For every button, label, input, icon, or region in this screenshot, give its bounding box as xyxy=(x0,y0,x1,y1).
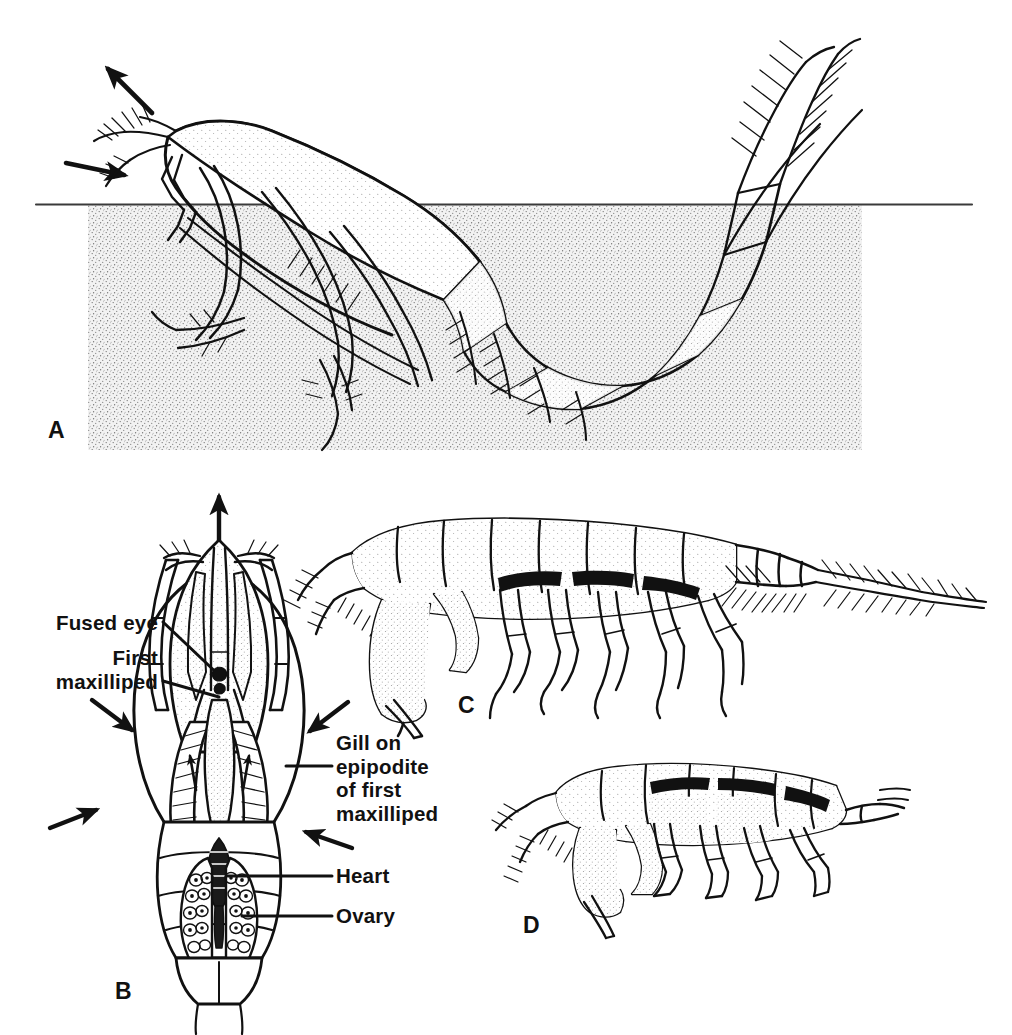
label-ovary: Ovary xyxy=(336,904,395,928)
leader-fused-eye xyxy=(163,622,222,678)
leader-first-maxilliped xyxy=(163,681,219,697)
label-ovary-line-1: Ovary xyxy=(336,904,395,928)
panel-letter-a: A xyxy=(48,417,65,444)
label-first-maxilliped-line-1: First xyxy=(0,646,158,670)
figure-root: Fused eye First maxilliped Gill on epipo… xyxy=(0,0,1012,1035)
label-fused-eye-line-1: Fused eye xyxy=(0,611,158,635)
label-leader-lines xyxy=(0,0,1012,1035)
label-heart: Heart xyxy=(336,864,389,888)
label-gill-line-3: of first xyxy=(336,778,438,802)
label-gill-on-epipodite: Gill on epipodite of first maxilliped xyxy=(336,731,438,825)
panel-letter-b: B xyxy=(115,978,132,1005)
label-gill-line-4: maxilliped xyxy=(336,802,438,826)
label-first-maxilliped-line-2: maxilliped xyxy=(0,670,158,694)
label-gill-line-1: Gill on xyxy=(336,731,438,755)
panel-letter-d: D xyxy=(523,912,540,939)
label-first-maxilliped: First maxilliped xyxy=(0,646,158,693)
panel-letter-c: C xyxy=(458,692,475,719)
label-fused-eye: Fused eye xyxy=(0,611,158,635)
label-heart-line-1: Heart xyxy=(336,864,389,888)
label-gill-line-2: epipodite xyxy=(336,755,438,779)
